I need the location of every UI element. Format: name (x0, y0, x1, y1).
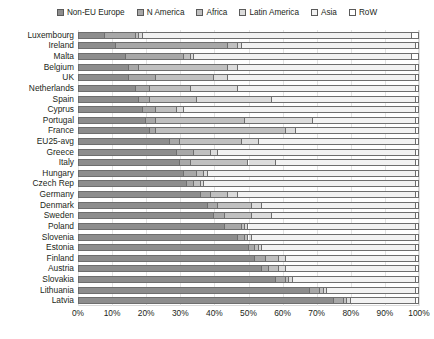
y-axis-label-ireland: Ireland (0, 41, 74, 50)
legend-label: N America (147, 8, 185, 17)
bar-row[interactable] (78, 244, 419, 251)
bar-segment (78, 96, 139, 103)
bar-segment (252, 212, 272, 219)
bar-segment (211, 191, 228, 198)
plot-area (78, 30, 419, 306)
bar-segment (416, 74, 419, 81)
bar-row[interactable] (78, 127, 419, 134)
bar-segment (78, 223, 225, 230)
bar-row[interactable] (78, 106, 419, 113)
legend-label: RoW (359, 8, 377, 17)
bar-segment (266, 255, 280, 262)
bar-row[interactable] (78, 74, 419, 81)
bar-segment (416, 117, 419, 124)
bar-segment (228, 74, 416, 81)
bar-segment (252, 202, 262, 209)
bar-segment (197, 170, 204, 177)
bar-row[interactable] (78, 297, 419, 304)
bar-segment (242, 138, 259, 145)
bar-row[interactable] (78, 32, 419, 39)
bar-row[interactable] (78, 180, 419, 187)
bar-segment (78, 276, 276, 283)
legend-item-n-america[interactable]: N America (137, 8, 185, 17)
bar-row[interactable] (78, 85, 419, 92)
y-axis-labels: LuxembourgIrelandMaltaBelgiumUKNetherlan… (0, 30, 74, 306)
bar-segment (194, 53, 412, 60)
bar-segment (286, 127, 296, 134)
y-axis-label-denmark: Denmark (0, 201, 74, 210)
bar-segment (416, 42, 419, 49)
bar-row[interactable] (78, 202, 419, 209)
y-axis-label-cyprus: Cyprus (0, 105, 74, 114)
bar-segment (180, 159, 190, 166)
bar-row[interactable] (78, 64, 419, 71)
legend-item-africa[interactable]: Africa (196, 8, 227, 17)
bar-segment (416, 127, 419, 134)
legend-swatch-icon (137, 9, 144, 16)
bar-row[interactable] (78, 53, 419, 60)
legend-item-latin-america[interactable]: Latin America (239, 8, 299, 17)
bar-segment (272, 212, 415, 219)
bar-row[interactable] (78, 42, 419, 49)
y-axis-label-france: France (0, 126, 74, 135)
bar-segment (78, 234, 238, 241)
bar-row[interactable] (78, 234, 419, 241)
chart-caption (0, 330, 434, 339)
bar-segment (416, 138, 419, 145)
bar-row[interactable] (78, 117, 419, 124)
bar-segment (286, 255, 416, 262)
bar-row[interactable] (78, 287, 419, 294)
bar-segment (126, 53, 184, 60)
y-axis-label-luxembourg: Luxembourg (0, 31, 74, 40)
bar-segment (78, 32, 105, 39)
bar-segment (78, 64, 129, 71)
x-axis-tick-60: 60% (274, 308, 291, 318)
bar-segment (78, 149, 177, 156)
bar-segment (416, 244, 419, 251)
bar-row[interactable] (78, 149, 419, 156)
y-axis-label-italy: Italy (0, 158, 74, 167)
bar-row[interactable] (78, 265, 419, 272)
y-axis-label-eu25-avg: EU25-avg (0, 137, 74, 146)
y-axis-label-czech-rep: Czech Rep (0, 179, 74, 188)
y-axis-label-hungary: Hungary (0, 169, 74, 178)
bar-segment (279, 255, 286, 262)
legend-swatch-icon (349, 9, 356, 16)
bar-segment (416, 212, 419, 219)
bar-row[interactable] (78, 191, 419, 198)
bar-segment (139, 64, 228, 71)
bar-row[interactable] (78, 276, 419, 283)
x-axis-ticks: 0%10%20%30%40%50%60%70%80%90%100% (0, 308, 434, 322)
legend-item-row[interactable]: RoW (349, 8, 377, 17)
bar-segment (116, 42, 229, 49)
bar-segment (191, 159, 249, 166)
bar-segment (416, 170, 419, 177)
bar-segment (416, 106, 419, 113)
stacked-bar-chart: Non-EU EuropeN AmericaAfricaLatin Americ… (0, 0, 434, 339)
legend-swatch-icon (311, 9, 318, 16)
bar-segment (412, 32, 419, 39)
x-axis-tick-20: 20% (138, 308, 155, 318)
bar-segment (416, 64, 419, 71)
bar-segment (78, 180, 187, 187)
y-axis-label-germany: Germany (0, 190, 74, 199)
bar-row[interactable] (78, 212, 419, 219)
bar-segment (150, 96, 198, 103)
bar-row[interactable] (78, 96, 419, 103)
bar-row[interactable] (78, 223, 419, 230)
bar-row[interactable] (78, 138, 419, 145)
bar-row[interactable] (78, 170, 419, 177)
bar-segment (416, 287, 419, 294)
y-axis-label-malta: Malta (0, 52, 74, 61)
bar-segment (416, 180, 419, 187)
bar-segment (78, 255, 255, 262)
bar-segment (78, 85, 136, 92)
bar-segment (146, 117, 156, 124)
legend-item-asia[interactable]: Asia (311, 8, 337, 17)
bar-row[interactable] (78, 159, 419, 166)
bar-segment (416, 223, 419, 230)
bar-segment (293, 276, 416, 283)
y-axis-label-austria: Austria (0, 264, 74, 273)
bar-row[interactable] (78, 255, 419, 262)
legend-item-non-eu-europe[interactable]: Non-EU Europe (57, 8, 125, 17)
